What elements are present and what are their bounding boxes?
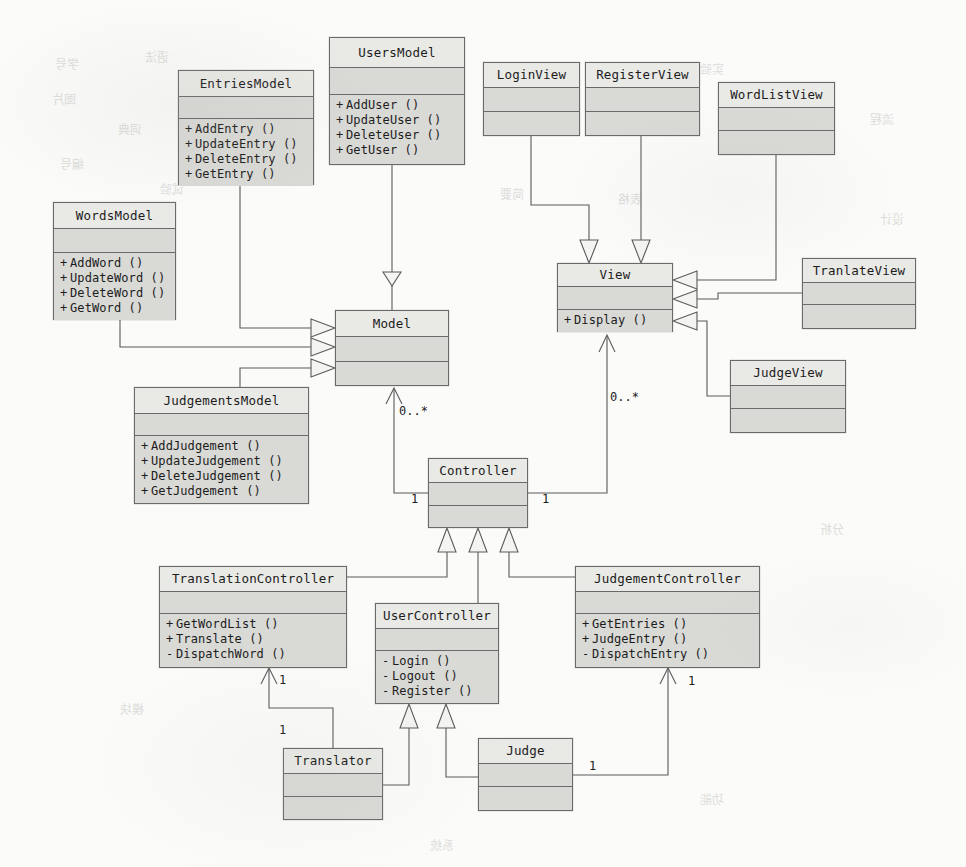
- uml-attributes-compartment: [558, 287, 672, 310]
- uml-operations-compartment: [803, 305, 915, 323]
- uml-operation-label: GetWordList (): [176, 617, 279, 631]
- uml-operation-label: Translate (): [176, 632, 264, 646]
- uml-operation: +AddEntry (): [185, 122, 309, 137]
- multiplicity-label-view-controller-many: 0..*: [610, 390, 639, 404]
- arrow-loginview-view: [580, 240, 598, 263]
- uml-class-model[interactable]: Model: [335, 310, 449, 386]
- uml-visibility-marker: +: [166, 617, 176, 632]
- multiplicity-label-translationcontroller-one: 1: [279, 673, 286, 687]
- uml-operation-label: DeleteWord (): [70, 286, 165, 300]
- uml-class-wordsmodel[interactable]: WordsModel+AddWord ()+UpdateWord ()+Dele…: [53, 202, 176, 320]
- uml-operation-label: DispatchEntry (): [592, 647, 709, 661]
- uml-visibility-marker: +: [582, 617, 592, 632]
- uml-operation-label: UpdateUser (): [346, 113, 441, 127]
- uml-operation: -Logout (): [382, 669, 494, 684]
- multiplicity-label-model-controller-many: 0..*: [399, 404, 428, 418]
- uml-operations-compartment: +AddEntry ()+UpdateEntry ()+DeleteEntry …: [179, 119, 313, 186]
- uml-operation-label: GetEntries (): [592, 617, 687, 631]
- uml-operations-compartment: [586, 112, 699, 130]
- uml-class-judgeview[interactable]: JudgeView: [730, 360, 846, 433]
- uml-class-judge[interactable]: Judge: [478, 738, 573, 811]
- uml-operation-label: AddUser (): [346, 98, 419, 112]
- uml-operation-label: Logout (): [392, 669, 458, 683]
- uml-operation-label: DeleteUser (): [346, 128, 441, 142]
- uml-operation: +Translate (): [166, 632, 342, 647]
- edge-loginview-view: [531, 136, 589, 240]
- uml-operation: +GetEntry (): [185, 167, 309, 182]
- uml-class-judgementsmodel[interactable]: JudgementsModel+AddJudgement ()+UpdateJu…: [134, 387, 309, 504]
- uml-visibility-marker: +: [60, 301, 70, 316]
- uml-operation: +Display (): [564, 313, 668, 328]
- uml-class-view[interactable]: View+Display (): [557, 263, 673, 332]
- edge-judgementsmodel-model: [240, 368, 311, 387]
- uml-operation-label: UpdateEntry (): [195, 137, 298, 151]
- uml-operation: +GetWord (): [60, 301, 171, 316]
- uml-operation-label: Register (): [392, 684, 473, 698]
- uml-class-translationcontroller[interactable]: TranslationController+GetWordList ()+Tra…: [159, 566, 347, 668]
- uml-operation: +AddJudgement (): [141, 439, 304, 454]
- uml-operation-label: DispatchWord (): [176, 647, 286, 661]
- arrow-tranlateview-view: [673, 290, 697, 308]
- uml-class-registerview[interactable]: RegisterView: [585, 62, 700, 136]
- uml-operation: +DeleteEntry (): [185, 152, 309, 167]
- uml-visibility-marker: +: [582, 632, 592, 647]
- uml-operation-label: JudgeEntry (): [592, 632, 687, 646]
- arrow-judgeview-view: [673, 312, 697, 330]
- uml-visibility-marker: -: [382, 654, 392, 669]
- arrow-wordsmodel-model: [311, 338, 335, 356]
- edge-judge-usercontroller: [446, 728, 478, 777]
- uml-attributes-compartment: [484, 88, 579, 112]
- uml-diagram-canvas: 学号语法图片词典编号试验简要表格实验流程设计模块系统功能分析: [0, 0, 966, 867]
- uml-operation: +UpdateUser (): [336, 113, 460, 128]
- uml-class-name: JudgeView: [731, 361, 845, 386]
- edge-entriesmodel-model: [240, 185, 311, 328]
- arrow-judgementcontroller-controller: [500, 528, 518, 552]
- uml-visibility-marker: +: [141, 484, 151, 499]
- uml-attributes-compartment: [576, 592, 759, 614]
- uml-class-name: Translator: [284, 749, 382, 774]
- uml-operations-compartment: -Login ()-Logout ()-Register (): [376, 651, 498, 703]
- edge-controller-view: [528, 336, 607, 493]
- uml-attributes-compartment: [719, 108, 834, 131]
- uml-operations-compartment: [484, 112, 579, 130]
- uml-class-tranlateview[interactable]: TranlateView: [802, 258, 916, 329]
- uml-attributes-compartment: [54, 229, 175, 253]
- uml-operation: +AddUser (): [336, 98, 460, 113]
- uml-operation-label: AddEntry (): [195, 122, 276, 136]
- uml-visibility-marker: +: [60, 271, 70, 286]
- arrow-judgementsmodel-model: [311, 359, 335, 377]
- uml-attributes-compartment: [179, 97, 313, 119]
- uml-attributes-compartment: [284, 774, 382, 797]
- uml-operations-compartment: +GetWordList ()+Translate ()-DispatchWor…: [160, 614, 346, 666]
- uml-class-name: LoginView: [484, 63, 579, 88]
- uml-operation: +GetEntries (): [582, 617, 755, 632]
- uml-class-usersmodel[interactable]: UsersModel+AddUser ()+UpdateUser ()+Dele…: [329, 37, 465, 165]
- uml-class-controller[interactable]: Controller: [428, 458, 528, 528]
- uml-attributes-compartment: [803, 283, 915, 305]
- uml-visibility-marker: +: [185, 137, 195, 152]
- uml-class-translator[interactable]: Translator: [283, 748, 383, 820]
- uml-attributes-compartment: [586, 88, 699, 112]
- uml-operation-label: GetWord (): [70, 301, 143, 315]
- edge-judgementcontroller-controller: [509, 552, 575, 577]
- uml-class-usercontroller[interactable]: UserController-Login ()-Logout ()-Regist…: [375, 603, 499, 704]
- uml-operation: +UpdateEntry (): [185, 137, 309, 152]
- uml-class-loginview[interactable]: LoginView: [483, 62, 580, 136]
- uml-class-wordlistview[interactable]: WordListView: [718, 82, 835, 155]
- uml-class-name: Controller: [429, 459, 527, 483]
- uml-operation: +GetUser (): [336, 143, 460, 158]
- uml-operation: -Login (): [382, 654, 494, 669]
- arrow-usercontroller-controller: [469, 528, 487, 552]
- edge-tranlateview-view: [697, 293, 802, 299]
- uml-visibility-marker: +: [185, 122, 195, 137]
- uml-operations-compartment: +GetEntries ()+JudgeEntry ()-DispatchEnt…: [576, 614, 759, 666]
- uml-operation: +GetJudgement (): [141, 484, 304, 499]
- edge-translationcontroller-controller: [347, 552, 447, 577]
- arrow-wordlistview-view: [673, 271, 697, 289]
- uml-operations-compartment: +AddWord ()+UpdateWord ()+DeleteWord ()+…: [54, 253, 175, 320]
- uml-class-entriesmodel[interactable]: EntriesModel+AddEntry ()+UpdateEntry ()+…: [178, 70, 314, 185]
- multiplicity-label-controller-model-one: 1: [411, 492, 418, 506]
- uml-operation: +DeleteWord (): [60, 286, 171, 301]
- multiplicity-label-judgementcontroller-one: 1: [688, 674, 695, 688]
- uml-class-judgementcontroller[interactable]: JudgementController+GetEntries ()+JudgeE…: [575, 566, 760, 668]
